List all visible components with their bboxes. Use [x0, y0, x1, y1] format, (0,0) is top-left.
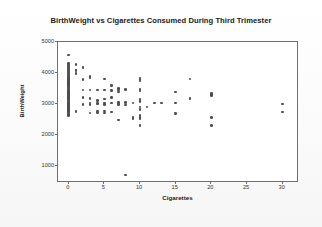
- x-axis-tick-label: 25: [236, 184, 256, 190]
- scatter-point: [75, 72, 78, 75]
- scatter-point: [281, 103, 284, 106]
- scatter-point: [89, 89, 92, 92]
- plot-area: [57, 41, 298, 182]
- y-axis-tick-mark: [55, 134, 57, 135]
- scatter-point: [96, 89, 99, 92]
- x-axis-tick-mark: [139, 182, 140, 184]
- scatter-point: [124, 104, 127, 107]
- y-axis-tick-label: 2000: [30, 131, 54, 137]
- scatter-point: [117, 91, 120, 94]
- scatter-point: [174, 91, 177, 94]
- x-axis-tick-label: 10: [129, 184, 149, 190]
- scatter-point: [67, 114, 70, 117]
- scatter-point: [75, 110, 78, 113]
- scatter-point: [160, 102, 163, 105]
- scatter-point: [89, 112, 92, 115]
- scatter-point: [103, 89, 106, 92]
- x-axis-tick-mark: [282, 182, 283, 184]
- scatter-point: [110, 111, 113, 114]
- scatter-point: [281, 111, 284, 114]
- scatter-point: [110, 89, 113, 92]
- scatter-point: [103, 112, 106, 115]
- scatter-point: [174, 102, 177, 105]
- scatter-point: [96, 103, 99, 106]
- scatter-point: [82, 103, 85, 106]
- scatter-point: [146, 106, 149, 109]
- scatter-point: [124, 88, 127, 91]
- scatter-point: [189, 78, 192, 81]
- scatter-point: [124, 174, 127, 177]
- y-axis-tick-mark: [55, 72, 57, 73]
- y-axis-tick-label: 1000: [30, 162, 54, 168]
- scatter-points-layer: [58, 42, 297, 181]
- y-axis-tick-mark: [55, 103, 57, 104]
- y-axis-tick-label: 4000: [30, 69, 54, 75]
- scatter-point: [82, 78, 85, 81]
- x-axis-title: Cigarettes: [57, 194, 298, 201]
- scatter-point: [139, 124, 142, 127]
- chart-title: BirthWeight vs Cigarettes Consumed Durin…: [0, 16, 322, 25]
- scatter-point: [89, 97, 92, 100]
- scatter-point: [174, 112, 177, 115]
- y-axis-title: BirthWeight: [19, 71, 25, 131]
- y-axis-tick-mark: [55, 165, 57, 166]
- scatter-point: [210, 116, 213, 119]
- scatter-point: [132, 102, 135, 105]
- y-axis-tick-label: 3000: [30, 100, 54, 106]
- scatter-point: [82, 96, 85, 99]
- x-axis-tick-label: 0: [58, 184, 78, 190]
- x-axis-tick-mark: [246, 182, 247, 184]
- scatter-point: [117, 103, 120, 106]
- chart-canvas: BirthWeight vs Cigarettes Consumed Durin…: [0, 0, 322, 227]
- y-axis-tick-mark: [55, 41, 57, 42]
- x-axis-tick-mark: [175, 182, 176, 184]
- x-axis-tick-label: 30: [272, 184, 292, 190]
- x-axis-tick-label: 5: [93, 184, 113, 190]
- y-axis-tick-label: 5000: [30, 38, 54, 44]
- x-axis-tick-mark: [68, 182, 69, 184]
- x-axis-tick-mark: [103, 182, 104, 184]
- scatter-point: [82, 89, 85, 92]
- x-axis-tick-label: 20: [200, 184, 220, 190]
- scatter-point: [89, 103, 92, 106]
- scatter-point: [210, 124, 213, 127]
- scatter-point: [139, 108, 142, 111]
- scatter-point: [139, 90, 142, 93]
- scatter-point: [153, 102, 156, 105]
- scatter-point: [139, 117, 142, 120]
- scatter-point: [139, 100, 142, 103]
- y-axis-tick-labels: 10002000300040005000: [28, 41, 54, 182]
- scatter-point: [103, 78, 106, 81]
- scatter-point: [82, 66, 85, 69]
- scatter-point: [189, 97, 192, 100]
- scatter-point: [110, 84, 113, 87]
- scatter-point: [96, 111, 99, 114]
- scatter-point: [139, 80, 142, 83]
- scatter-point: [67, 54, 70, 57]
- scatter-point: [110, 96, 113, 99]
- scatter-point: [89, 76, 92, 79]
- x-axis-tick-mark: [210, 182, 211, 184]
- scatter-point: [117, 119, 120, 122]
- scatter-point: [110, 102, 113, 105]
- scatter-point: [132, 117, 135, 120]
- x-axis-tick-label: 15: [165, 184, 185, 190]
- scatter-point: [103, 98, 106, 101]
- scatter-point: [210, 94, 213, 97]
- scatter-point: [103, 103, 106, 106]
- scatter-point: [75, 63, 78, 66]
